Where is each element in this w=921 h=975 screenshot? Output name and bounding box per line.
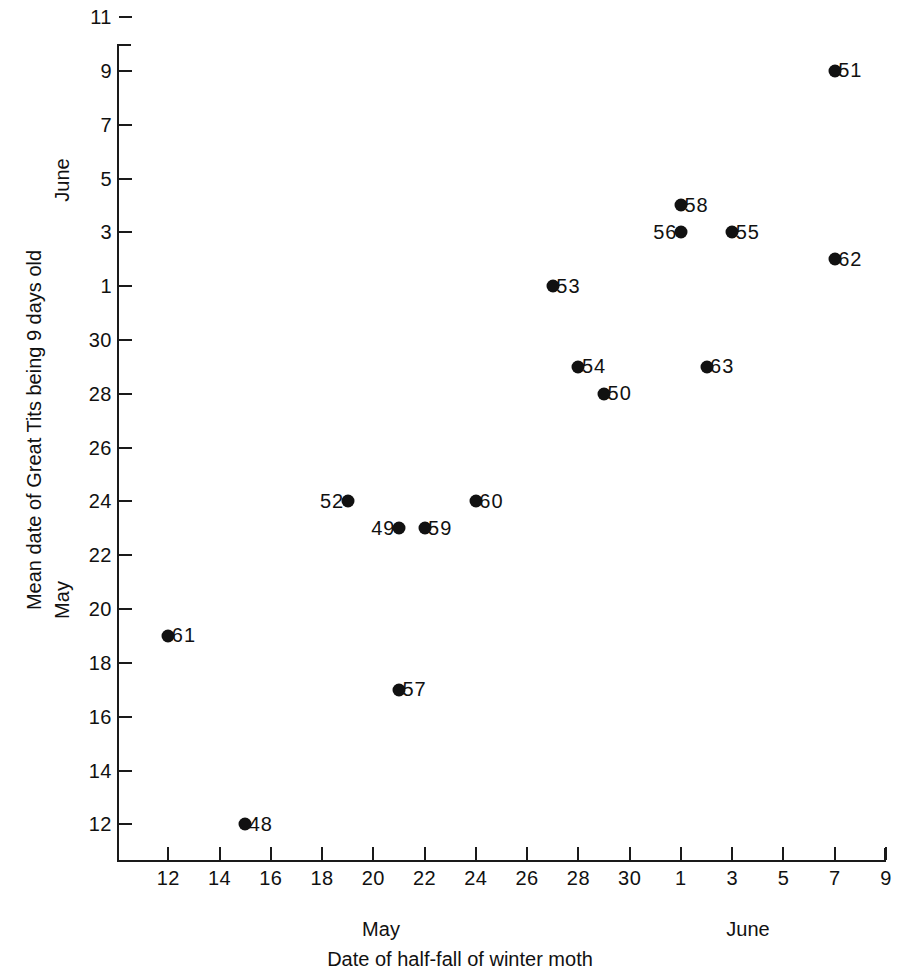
- x-tick: 30: [629, 847, 631, 860]
- y-tick-label: 18: [89, 651, 112, 674]
- x-tick-label: 12: [157, 867, 180, 890]
- data-point[interactable]: 51: [828, 64, 841, 77]
- data-point[interactable]: 56: [674, 226, 687, 239]
- x-tick: 14: [219, 847, 221, 860]
- x-tick: 12: [167, 847, 169, 860]
- y-tick: 24: [119, 500, 132, 502]
- y-tick-label: 5: [100, 167, 112, 190]
- x-tick-label: 9: [880, 867, 892, 890]
- y-tick: 11: [119, 16, 132, 18]
- y-tick-label: 30: [89, 328, 112, 351]
- data-point-label: 55: [736, 221, 760, 244]
- y-tick: 7: [119, 124, 132, 126]
- data-point-label: 56: [653, 221, 677, 244]
- data-point[interactable]: 59: [418, 522, 431, 535]
- data-point[interactable]: 57: [392, 683, 405, 696]
- x-tick: 18: [321, 847, 323, 860]
- data-point-label: 50: [608, 382, 632, 405]
- y-tick: 26: [119, 447, 132, 449]
- scatter-chart-figure: Mean date of Great Tits being 9 days old…: [0, 0, 921, 975]
- y-tick: 3: [119, 231, 132, 233]
- y-tick: 1: [119, 285, 132, 287]
- plot-area: 121416182022242628301357911 121416182022…: [117, 44, 886, 862]
- x-tick: 5: [782, 847, 784, 860]
- data-point[interactable]: 61: [162, 629, 175, 642]
- y-axis-top-cap: [117, 44, 131, 46]
- data-point-label: 63: [710, 355, 734, 378]
- x-tick: 3: [731, 847, 733, 860]
- x-axis-spine: [117, 860, 886, 862]
- y-tick-label: 16: [89, 705, 112, 728]
- data-point[interactable]: 55: [726, 226, 739, 239]
- x-tick-label: 16: [259, 867, 282, 890]
- y-tick-label: 24: [89, 490, 112, 513]
- x-tick-label: 7: [829, 867, 841, 890]
- y-tick-label: 12: [89, 813, 112, 836]
- y-tick: 28: [119, 393, 132, 395]
- y-tick: 22: [119, 554, 132, 556]
- y-tick: 20: [119, 608, 132, 610]
- data-point-label: 57: [402, 678, 426, 701]
- data-point[interactable]: 62: [828, 253, 841, 266]
- x-tick: 7: [834, 847, 836, 860]
- y-tick: 14: [119, 770, 132, 772]
- x-tick: 1: [680, 847, 682, 860]
- data-point[interactable]: 54: [572, 360, 585, 373]
- y-tick-label: 28: [89, 382, 112, 405]
- y-tick: 16: [119, 716, 132, 718]
- y-tick-label: 3: [100, 221, 112, 244]
- data-point-label: 54: [582, 355, 606, 378]
- x-tick: 20: [372, 847, 374, 860]
- x-axis-month-june: June: [726, 918, 769, 941]
- y-axis-month-may: May: [51, 581, 74, 619]
- data-point-label: 48: [249, 813, 273, 836]
- x-tick-label: 26: [516, 867, 539, 890]
- data-point-label: 49: [371, 517, 395, 540]
- x-tick-label: 18: [310, 867, 333, 890]
- data-point-label: 59: [428, 517, 452, 540]
- x-tick: 28: [577, 847, 579, 860]
- y-tick: 18: [119, 662, 132, 664]
- data-point[interactable]: 63: [700, 360, 713, 373]
- y-tick-label: 11: [90, 6, 112, 29]
- x-tick-label: 30: [618, 867, 641, 890]
- y-axis-month-june: June: [51, 158, 74, 201]
- y-tick-label: 9: [100, 59, 112, 82]
- x-tick-label: 14: [208, 867, 231, 890]
- data-point[interactable]: 58: [674, 199, 687, 212]
- data-point[interactable]: 53: [546, 280, 559, 293]
- data-point[interactable]: 52: [341, 495, 354, 508]
- y-tick-label: 22: [89, 544, 112, 567]
- x-tick: 9: [885, 847, 887, 860]
- x-tick: 24: [475, 847, 477, 860]
- y-tick: 30: [119, 339, 132, 341]
- data-point[interactable]: 50: [598, 387, 611, 400]
- data-point-label: 62: [838, 248, 862, 271]
- data-point[interactable]: 60: [469, 495, 482, 508]
- y-axis-title: Mean date of Great Tits being 9 days old: [23, 250, 46, 610]
- x-tick-label: 5: [778, 867, 790, 890]
- y-tick-label: 26: [89, 436, 112, 459]
- x-tick: 16: [270, 847, 272, 860]
- x-tick-label: 20: [362, 867, 385, 890]
- y-tick-label: 14: [89, 759, 112, 782]
- x-axis-title: Date of half-fall of winter moth: [327, 948, 593, 971]
- x-tick-label: 24: [464, 867, 487, 890]
- x-tick-label: 22: [413, 867, 436, 890]
- y-tick: 5: [119, 178, 132, 180]
- y-tick-label: 7: [100, 113, 112, 136]
- data-point[interactable]: 48: [239, 818, 252, 831]
- data-point-label: 60: [479, 490, 503, 513]
- x-tick: 22: [424, 847, 426, 860]
- x-tick: 26: [526, 847, 528, 860]
- x-tick-label: 3: [726, 867, 738, 890]
- y-tick: 9: [119, 70, 132, 72]
- x-axis-month-may: May: [362, 918, 400, 941]
- data-point-label: 53: [556, 275, 580, 298]
- data-point[interactable]: 49: [392, 522, 405, 535]
- y-tick-label: 20: [89, 598, 112, 621]
- y-tick-label: 1: [100, 275, 112, 298]
- x-tick-label: 28: [567, 867, 590, 890]
- x-tick-label: 1: [675, 867, 687, 890]
- y-tick: 12: [119, 823, 132, 825]
